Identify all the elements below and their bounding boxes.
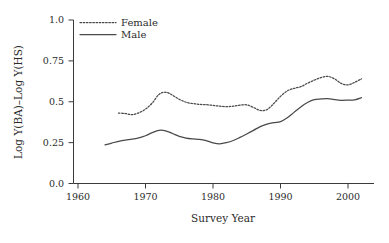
legend-label-female: Female: [121, 17, 158, 28]
x-tick-label: 1970: [133, 191, 157, 202]
chart-legend: Female Male: [80, 17, 158, 40]
y-axis-ticks: 0.00.250.50.751.0: [43, 14, 74, 189]
x-axis-title: Survey Year: [191, 212, 256, 224]
x-tick-label: 1980: [201, 191, 225, 202]
data-series-group: [105, 76, 362, 145]
y-tick-label: 0.75: [43, 55, 64, 66]
series-line-female: [119, 76, 362, 114]
line-chart: 0.00.250.50.751.0 19601970198019902000 L…: [0, 0, 389, 243]
x-tick-label: 1990: [268, 191, 292, 202]
x-tick-label: 2000: [336, 191, 360, 202]
series-line-male: [105, 98, 362, 145]
x-axis-ticks: 19601970198019902000: [66, 184, 360, 203]
y-tick-label: 0.25: [43, 137, 64, 148]
chart-figure: 0.00.250.50.751.0 19601970198019902000 L…: [0, 0, 389, 243]
y-tick-label: 0.5: [49, 96, 64, 107]
y-tick-label: 0.0: [49, 178, 64, 189]
y-axis-title: Log Y(BA)–Log Y(HS): [12, 45, 24, 159]
x-tick-label: 1960: [66, 191, 90, 202]
legend-label-male: Male: [121, 29, 146, 40]
y-tick-label: 1.0: [49, 14, 64, 25]
